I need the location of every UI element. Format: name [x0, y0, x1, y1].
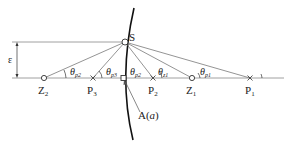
- zero-Z1: [189, 75, 194, 80]
- angle-theta-p3: θp3: [106, 66, 117, 78]
- point-S: [122, 39, 128, 45]
- diagram: ε S Z2 P3 P2 Z1 P1 A(a) θp2 θp3 θp2 θz1 …: [0, 0, 288, 152]
- root-locus-diagram: ε S Z2 P3 P2 Z1 P1 A(a) θp2 θp3 θp2 θz1 …: [0, 0, 288, 152]
- angle-theta-p1: θp1: [200, 66, 211, 78]
- label-Z2: Z2: [38, 84, 49, 98]
- epsilon-label: ε: [8, 54, 12, 65]
- label-A: A(a): [138, 109, 159, 122]
- point-A: [121, 76, 126, 81]
- label-S: S: [129, 31, 135, 43]
- zero-Z2: [41, 75, 46, 80]
- angle-theta-p2: θp2: [130, 66, 141, 78]
- label-P3: P3: [87, 84, 97, 98]
- label-P2: P2: [148, 84, 158, 98]
- label-Z1: Z1: [186, 84, 197, 98]
- arrow-down-icon: [16, 74, 19, 78]
- arrow-up-icon: [16, 42, 19, 46]
- angle-theta-p2-left: θp2: [70, 66, 81, 78]
- label-P1: P1: [245, 84, 255, 98]
